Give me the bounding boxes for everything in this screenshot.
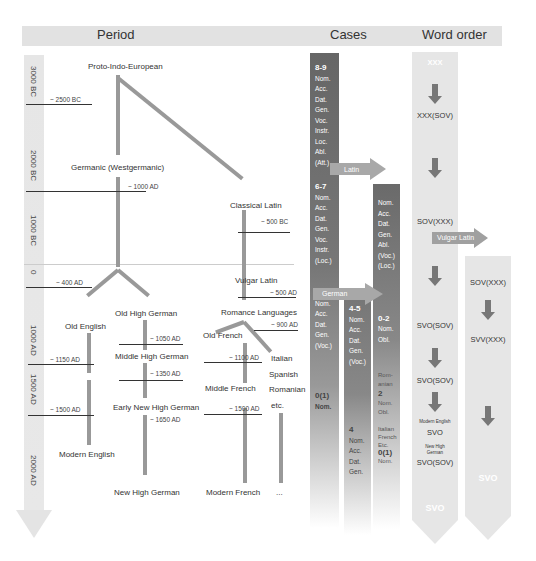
word-order-end: SVO [412, 503, 458, 513]
timeline-arrowhead-icon [16, 510, 52, 538]
word-order-item: SOV(XXX) [412, 217, 458, 226]
date-divider [238, 232, 290, 233]
branch-line [242, 210, 246, 300]
word-order-item: SOV(XXX) [465, 278, 511, 287]
date-divider [28, 415, 94, 416]
lang-modern-french: Modern French [206, 488, 260, 497]
case-count: 6-7 [315, 182, 327, 191]
timeline-label: 2000 BC [29, 150, 38, 181]
case-count: 0-2 [378, 314, 390, 323]
vulgar-latin-arrow-label: Vulgar Latin [437, 234, 474, 241]
word-order-item: SVO(SOV) [412, 376, 458, 385]
date-divider [254, 330, 298, 331]
lang-romanian: Romanian [269, 385, 305, 394]
date-divider [26, 287, 92, 288]
timeline-bar [24, 55, 44, 515]
down-arrow-icon [428, 348, 442, 368]
date-label: ~ 1100 AD [229, 354, 259, 361]
date-label: ~ 400 AD [56, 279, 83, 286]
word-order-item: SVO(SOV) [412, 458, 458, 467]
date-divider [119, 344, 183, 345]
lang-old-english: Old English [65, 322, 106, 331]
date-label: ~ 1500 AD [50, 406, 81, 413]
lang-new-high-german: New High German [114, 488, 180, 497]
german-arrow-label: German [322, 290, 347, 297]
branch-line [86, 268, 119, 297]
lang-germanic: Germanic (Westgermanic) [71, 163, 164, 172]
case-count: 4 [349, 425, 353, 434]
lang-vulgar-latin: Vulgar Latin [235, 276, 277, 285]
lang-early-new-high-german: Early New High German [113, 403, 199, 412]
down-arrow-icon [428, 392, 442, 412]
date-label: ~ 500 AD [270, 289, 297, 296]
case-count: 0(1) [378, 448, 392, 457]
date-divider [204, 362, 262, 363]
branch-line [243, 408, 247, 483]
date-divider [28, 364, 94, 365]
branch-line [143, 415, 147, 475]
date-label: ~ 1150 AD [50, 356, 80, 363]
date-divider [238, 297, 296, 298]
down-arrow-icon [428, 84, 442, 104]
header-word-order: Word order [422, 27, 487, 42]
lang-old-high-german: Old High German [115, 309, 177, 318]
lang-romance: Romance Languages [221, 308, 297, 317]
word-order-item: SVV(XXX) [465, 335, 511, 344]
word-order-main-arrowhead-icon [412, 520, 458, 544]
case-count: 4-5 [349, 304, 361, 313]
date-label: ~ 1650 AD [150, 416, 181, 423]
date-divider [26, 104, 92, 105]
case-count: 8-9 [315, 63, 327, 72]
branch-line [279, 413, 283, 483]
lang-modern-english: Modern English [59, 450, 115, 459]
case-column-german: 4-5 Nom. Acc. Dat. Gen. (Voc.) 4 Nom. Ac… [344, 300, 371, 535]
down-arrow-icon [481, 300, 495, 320]
word-order-item: XXX(SOV) [412, 111, 458, 120]
word-order-item: SVO [412, 428, 458, 437]
word-order-item: XXX [412, 58, 458, 67]
year-zero-divider [24, 264, 294, 265]
down-arrow-icon [428, 266, 442, 286]
lang-italian: Italian [271, 354, 292, 363]
timeline-label: 3000 BC [29, 66, 38, 97]
case-column-latin-romance: Nom. Acc. Dat. Gen. Abl. (Voc.) (Loc.) 0… [373, 184, 400, 529]
timeline-label: 1000 AD [29, 325, 38, 356]
timeline-label: 1500 AD [29, 374, 38, 405]
timeline-label: 1000 BC [29, 215, 38, 246]
branch-line [116, 75, 120, 155]
word-order-romance-arrowhead-icon [465, 516, 511, 540]
branch-line [243, 343, 247, 383]
date-divider [26, 191, 146, 192]
word-order-sublabel: New High German [417, 444, 453, 456]
branch-line [87, 333, 91, 373]
date-label: ~ 2500 BC [50, 96, 81, 103]
lang-middle-high-german: Middle High German [115, 352, 188, 361]
header-period: Period [97, 27, 135, 42]
date-label: ~ 900 AD [271, 321, 298, 328]
date-label: ~ 500 BC [261, 218, 288, 225]
lang-old-french: Old French [203, 331, 243, 340]
timeline-label: 0 [29, 270, 38, 274]
word-order-item: SVO(SOV) [412, 321, 458, 330]
down-arrow-icon [428, 158, 442, 178]
case-count: 2 [378, 389, 382, 398]
case-count: 0(1) [315, 391, 329, 400]
lang-spanish: Spanish [269, 370, 298, 379]
branch-line [143, 320, 147, 350]
lang-ellipsis: ... [276, 488, 283, 497]
word-order-end: SVO [465, 473, 511, 483]
lang-classical-latin: Classical Latin [230, 201, 282, 210]
date-divider [119, 380, 183, 381]
header-cases: Cases [330, 27, 367, 42]
branch-line [87, 380, 91, 445]
branch-line [117, 268, 150, 297]
lang-middle-french: Middle French [205, 384, 256, 393]
lang-etc: etc. [271, 401, 284, 410]
date-label: ~ 1050 AD [150, 335, 181, 342]
date-label: ~ 1500 AD [229, 405, 260, 412]
timeline-label: 2000 AD [29, 455, 38, 486]
date-label: ~ 1000 AD [128, 183, 159, 190]
date-label: ~ 1350 AD [150, 370, 181, 377]
date-divider [204, 414, 262, 415]
latin-arrow-label: Latin [344, 166, 359, 173]
